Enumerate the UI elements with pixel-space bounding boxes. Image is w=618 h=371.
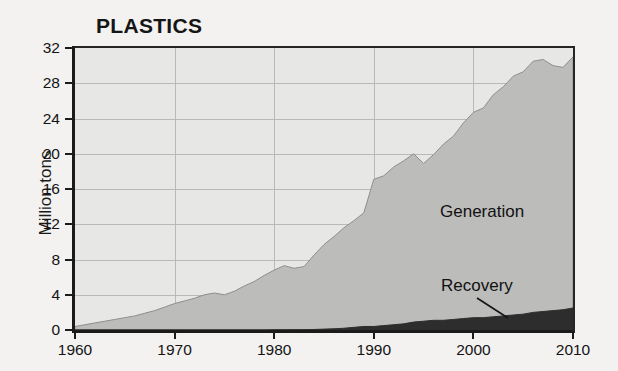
- y-tick-label: 4: [32, 286, 60, 304]
- x-tick-label: 1980: [257, 341, 291, 359]
- y-tick-label: 16: [32, 180, 60, 198]
- y-tick-label: 24: [32, 110, 60, 128]
- y-tick-mark: [65, 47, 73, 49]
- x-tick-mark: [273, 331, 275, 339]
- x-tick-mark: [373, 331, 375, 339]
- x-axis-line: [72, 330, 575, 333]
- x-tick-label: 2000: [456, 341, 490, 359]
- x-tick-mark: [472, 331, 474, 339]
- y-tick-label: 20: [32, 145, 60, 163]
- series-label-generation: Generation: [440, 202, 524, 222]
- x-tick-label: 1970: [157, 341, 191, 359]
- y-tick-mark: [65, 329, 73, 331]
- y-tick-label: 0: [32, 321, 60, 339]
- x-tick-mark: [174, 331, 176, 339]
- y-tick-mark: [65, 223, 73, 225]
- x-tick-label: 2010: [556, 341, 590, 359]
- y-tick-mark: [65, 259, 73, 261]
- plastics-area-chart: PLASTICS Million tons 048121620242832 19…: [0, 0, 618, 371]
- y-tick-label: 28: [32, 74, 60, 92]
- y-tick-label: 8: [32, 251, 60, 269]
- y-tick-mark: [65, 82, 73, 84]
- y-tick-mark: [65, 118, 73, 120]
- y-tick-mark: [65, 188, 73, 190]
- y-tick-label: 12: [32, 215, 60, 233]
- chart-title: PLASTICS: [96, 14, 202, 38]
- x-tick-label: 1990: [357, 341, 391, 359]
- y-tick-mark: [65, 294, 73, 296]
- y-tick-mark: [65, 153, 73, 155]
- series-label-recovery: Recovery: [441, 276, 513, 296]
- x-tick-mark: [572, 331, 574, 339]
- y-tick-label: 32: [32, 39, 60, 57]
- x-tick-label: 1960: [58, 341, 92, 359]
- x-tick-mark: [74, 331, 76, 339]
